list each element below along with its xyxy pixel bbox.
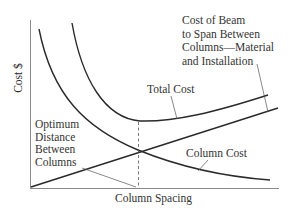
optimum-label-line: Between [35,143,79,156]
column-cost-leader [198,160,208,171]
total-cost-leader [171,96,177,119]
total-cost-label: Total Cost [147,83,194,96]
beam-cost-label: Cost of Beam to Span Between Columns—Mat… [182,14,274,68]
y-axis-label: Cost $ [12,58,24,98]
x-axis-label: Column Spacing [115,192,192,205]
optimum-label-line: Optimum [35,118,79,131]
optimum-label-line: Distance [35,131,79,144]
optimum-leader [82,168,136,187]
beam-cost-label-line: Cost of Beam [182,14,274,28]
beam-cost-leader [257,64,268,112]
column-cost-label: Column Cost [186,147,247,160]
beam-cost-label-line: Columns—Material [182,41,274,55]
optimum-label-line: Columns [35,156,79,169]
beam-cost-label-line: to Span Between [182,28,274,42]
beam-cost-label-line: and Installation [182,55,274,69]
optimum-label: Optimum Distance Between Columns [35,118,79,168]
